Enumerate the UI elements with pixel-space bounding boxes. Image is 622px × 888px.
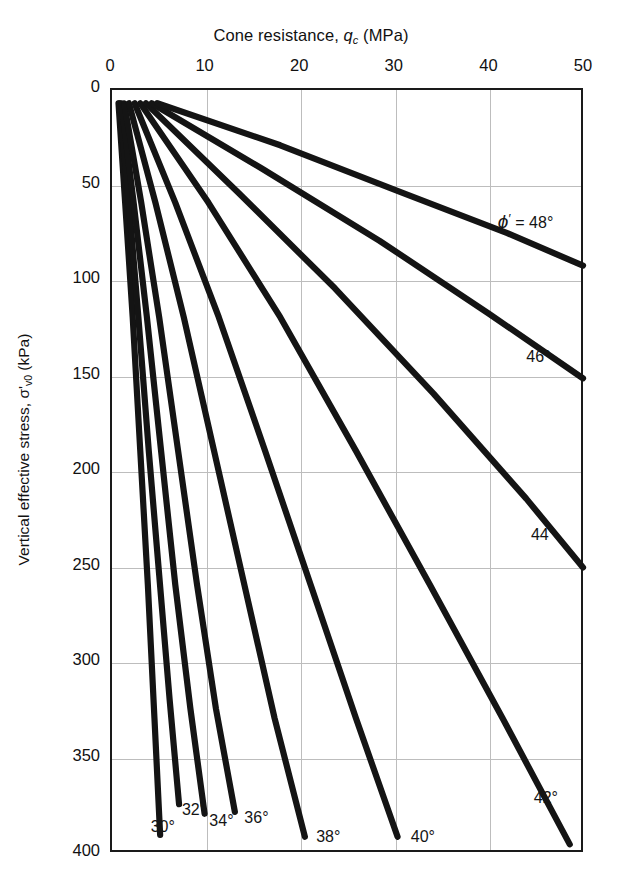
gridline-horizontal [112,186,581,187]
x-axis-title-symbol: q [344,26,353,44]
gridline-horizontal [112,281,581,282]
y-axis-title-symbol: σ' [15,386,32,399]
y-tick-label: 150 [48,364,100,383]
curve-label: 44° [531,526,555,544]
curve-label: ϕ′ = 48° [498,211,553,233]
x-tick-label: 30 [372,56,416,75]
gridline-horizontal [112,472,581,473]
gridline-vertical [301,90,302,850]
curve-label: 34° [209,812,233,830]
x-tick-label: 50 [561,56,605,75]
y-axis-title-subscript: v0 [22,375,34,386]
curve-label: 30° [151,818,175,836]
gridline-vertical [490,90,491,850]
curve-label: 46° [526,348,550,366]
curve-label: 36° [244,809,268,827]
gridline-horizontal [112,377,581,378]
y-axis-title-unit: (kPa) [15,334,32,375]
x-axis-title: Cone resistance, qc (MPa) [0,26,622,46]
x-tick-label: 40 [466,56,510,75]
curve-label: 42° [534,789,558,807]
y-axis-title-main: Vertical effective stress, [15,399,32,566]
y-tick-label: 100 [48,268,100,287]
x-tick-label: 20 [277,56,321,75]
curve-label: 32° [182,801,206,819]
y-tick-label: 0 [48,77,100,96]
y-tick-label: 350 [48,746,100,765]
x-tick-label: 10 [183,56,227,75]
y-tick-label: 200 [48,459,100,478]
cone-resistance-chart-figure: Cone resistance, qc (MPa) Vertical effec… [0,0,622,888]
x-axis-title-unit: (MPa) [358,26,408,44]
gridline-horizontal [112,759,581,760]
x-axis-title-main: Cone resistance, [213,26,343,44]
y-tick-label: 300 [48,650,100,669]
x-tick-label: 0 [88,56,132,75]
gridline-horizontal [112,568,581,569]
gridline-vertical [207,90,208,850]
gridline-horizontal [112,663,581,664]
y-tick-label: 250 [48,555,100,574]
plot-area [110,88,583,852]
curve-label: 40° [411,828,435,846]
y-tick-label: 50 [48,173,100,192]
y-axis-title: Vertical effective stress, σ'v0 (kPa) [15,240,34,660]
gridline-vertical [396,90,397,850]
y-tick-label: 400 [48,841,100,860]
curve-label: 38° [316,828,340,846]
